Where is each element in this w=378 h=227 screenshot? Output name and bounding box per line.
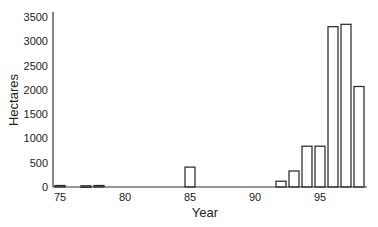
y-tick-1500: 1500 [24, 108, 48, 120]
bar-98 [354, 87, 364, 188]
bar-92 [276, 181, 286, 187]
bar-94 [302, 146, 312, 187]
y-tick-labels: 0500100015002000250030003500 [24, 11, 48, 193]
x-tick-95: 95 [314, 191, 326, 203]
y-tick-2500: 2500 [24, 60, 48, 72]
x-tick-labels: 7580859095 [54, 191, 326, 203]
bar-95 [315, 146, 325, 187]
bar-chart: 0500100015002000250030003500 7580859095 … [0, 0, 378, 227]
x-tick-75: 75 [54, 191, 66, 203]
bars-group [55, 24, 364, 187]
bar-96 [328, 27, 338, 187]
x-tick-80: 80 [119, 191, 131, 203]
x-tick-85: 85 [184, 191, 196, 203]
y-tick-2000: 2000 [24, 84, 48, 96]
y-tick-500: 500 [30, 157, 48, 169]
x-axis-title: Year [192, 205, 219, 220]
y-tick-1000: 1000 [24, 132, 48, 144]
y-tick-3500: 3500 [24, 11, 48, 23]
bar-85 [185, 167, 195, 187]
bar-97 [341, 24, 351, 187]
bar-93 [289, 171, 299, 187]
x-tick-90: 90 [249, 191, 261, 203]
y-tick-3000: 3000 [24, 35, 48, 47]
y-tick-0: 0 [42, 181, 48, 193]
y-axis-title: Hectares [6, 73, 21, 126]
